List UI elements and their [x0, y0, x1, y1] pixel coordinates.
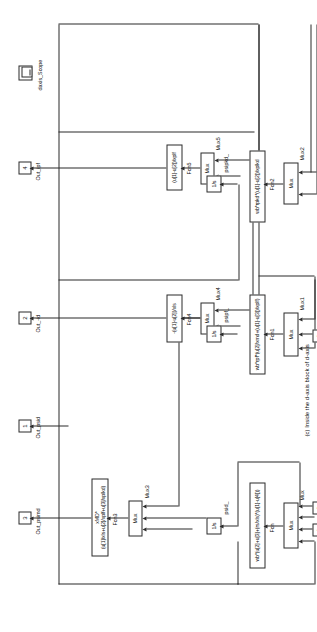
bus-line-top — [58, 24, 59, 584]
lower-route-4 — [310, 24, 311, 172]
psid-feedback-h — [237, 462, 238, 526]
arrowhead-psipf-in — [219, 332, 223, 336]
outport-3-number: 3 — [21, 516, 27, 519]
scope-label: daxis_Scope — [36, 59, 42, 90]
mux-input-1-arrow — [298, 539, 302, 543]
simulink-diagram-canvas: 1 Out_psid 3 Out_psimd 2 Out_-id 4 Out_i… — [0, 0, 317, 632]
mux-symbol: Mux — [288, 520, 294, 530]
integrator-psipf-label: psipf_ — [222, 308, 228, 322]
lower-route-2 — [314, 279, 315, 319]
integrator-psid-symbol: 1/s — [211, 522, 217, 529]
mux-in3-wire — [302, 516, 314, 517]
fcn3-expression: xMD*(u[1]/xls+u[2]/xplf+u[3]/xplkd) — [94, 480, 105, 554]
mux3-block[interactable]: Mux — [128, 500, 142, 536]
fcn-expression: wb*(u[2]+u[3]+(rs/xls)*(u[1]-u[4])) — [254, 489, 259, 561]
mux-in1-wire-h — [237, 541, 238, 584]
mux3-label: Mux3 — [143, 485, 149, 498]
arrowhead-outport-1 — [29, 424, 33, 428]
arrowhead-psipkd-in — [219, 182, 223, 186]
inport-1-number: 1 — [315, 528, 317, 531]
wire-to-outport-3 — [31, 517, 91, 518]
mux5-in2-wire-h — [258, 24, 259, 160]
mux2-in1-wire — [302, 193, 316, 194]
inport-3[interactable]: 3 — [312, 329, 317, 342]
mux2-input-2-arrow — [298, 170, 302, 174]
integrator-psipkd-symbol: 1/s — [211, 180, 217, 187]
mux2-symbol: Mux — [288, 178, 294, 188]
mux4-symbol: Mux — [204, 313, 210, 323]
mux5-input-2-arrow — [214, 158, 218, 162]
scope-icon[interactable] — [18, 65, 32, 80]
outport-2-number: 2 — [21, 316, 27, 319]
fcn-label: Fcn — [268, 523, 274, 532]
mux3-in3-wire-h — [178, 318, 179, 506]
mux-in1-wire — [302, 540, 314, 541]
mux2-label: Mux2 — [298, 147, 304, 160]
bus-line-right — [58, 23, 258, 24]
mux2-input-1-arrow — [298, 192, 302, 196]
outport-3-label: Out_psimd — [34, 508, 40, 534]
mux-in1-wire-h2 — [314, 541, 315, 584]
inport-3-number: 3 — [315, 334, 317, 337]
mux1-label: Mux1 — [298, 297, 304, 310]
mux3-input-2-arrow — [142, 516, 146, 520]
mux3-in1-wire — [146, 528, 192, 529]
fcn3-label: Fcn3 — [111, 513, 117, 525]
fcn4-label: Fcn4 — [185, 313, 191, 325]
integrator-psipkd-label: psipkd_ — [222, 153, 228, 172]
mux1-in3-wire — [302, 318, 314, 319]
psid-feedback-v — [237, 461, 299, 462]
bus-line-mid-2 — [58, 131, 254, 132]
inport-1[interactable]: 1 — [312, 523, 317, 536]
fcn3-block[interactable]: xMD*(u[1]/xls+u[2]/xplf+u[3]/xplkd) — [91, 478, 108, 556]
integrator-psid-label: psid_ — [222, 501, 228, 514]
wire-mux4-to-fcn4 — [182, 317, 200, 318]
mux1-block[interactable]: Mux — [283, 312, 298, 356]
inport-2-number: 2 — [315, 506, 317, 509]
mux1-input-3-arrow — [298, 317, 302, 321]
integrator-psipf-symbol: 1/s — [211, 330, 217, 337]
wire-mux3-to-fcn3 — [108, 517, 128, 518]
mux-input-2-arrow — [298, 527, 302, 531]
arrowhead-psid-in — [219, 524, 223, 528]
outport-4-label: Out_ipf — [34, 163, 40, 180]
outport-4-number: 4 — [21, 166, 27, 169]
mux3-in2-wire — [146, 517, 206, 518]
wire-mux2-to-fcn2 — [265, 183, 283, 184]
wire-to-outport-1 — [31, 425, 68, 426]
mux1-symbol: Mux — [288, 329, 294, 339]
wire-mux1-to-fcn1 — [265, 333, 283, 334]
mux1-input-2-arrow — [298, 332, 302, 336]
mux5-label: Mux5 — [214, 137, 220, 150]
wire-to-outport-4 — [31, 167, 166, 168]
mux3-symbol: Mux — [132, 513, 138, 523]
mux1-input-1-arrow — [298, 346, 302, 350]
mux3-input-1-arrow — [142, 527, 146, 531]
mux4-label: Mux4 — [214, 287, 220, 300]
mux-in4-wire-h — [299, 462, 300, 506]
fcn2-expression: wb*rpkd*(u[1]-u[2])/xplkd — [254, 159, 259, 213]
mux-block[interactable]: Mux — [283, 502, 298, 548]
fcn5-expression: (u[1]-u[2])/xplf — [171, 152, 176, 182]
arrowhead-fcn-in — [263, 524, 267, 528]
figure-caption: (c) Inside the d-axis block of d-axis — [303, 344, 309, 436]
mux2-block[interactable]: Mux — [283, 162, 298, 204]
inport-2[interactable]: 2 — [312, 501, 317, 514]
arrowhead-fcn3-in — [106, 516, 110, 520]
arrowhead-fcn1-in — [263, 332, 267, 336]
bus-line-mid-1 — [58, 279, 238, 280]
arrowhead-outport-3 — [29, 516, 33, 520]
mux-input-3-arrow — [298, 515, 302, 519]
fcn4-expression: -(u[1]-u[2])/xls — [171, 303, 176, 333]
outport-1-number: 1 — [21, 424, 27, 427]
wire-mux5-to-fcn5 — [182, 167, 200, 168]
arrowhead-fcn5-in — [180, 166, 184, 170]
arrowhead-fcn4-in — [180, 316, 184, 320]
arrowhead-fcn2-in — [263, 182, 267, 186]
bus-line-left — [58, 583, 238, 584]
wire-to-outport-2 — [31, 317, 166, 318]
mux3-input-3-arrow — [142, 504, 146, 508]
mux4-input-2-arrow — [214, 308, 218, 312]
mux-in1-wire-v2 — [237, 583, 314, 584]
outport-1-label: Out_psid — [34, 416, 40, 438]
